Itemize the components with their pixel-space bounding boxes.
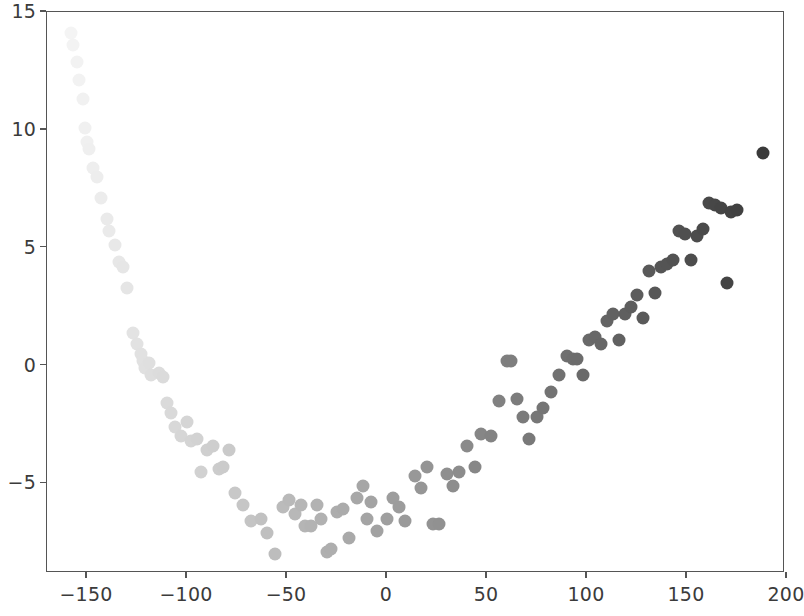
plot-axes: [46, 11, 784, 572]
data-point: [649, 286, 662, 299]
data-point: [325, 543, 338, 556]
data-point: [571, 352, 584, 365]
x-tick-mark: [585, 572, 586, 578]
x-tick-label: −100: [160, 583, 213, 605]
data-point: [415, 482, 428, 495]
data-point: [195, 465, 208, 478]
y-tick-mark: [40, 364, 46, 365]
scatter-plot-figure: −150−100−50050100150200 −5051015: [0, 0, 804, 616]
x-tick-mark: [285, 572, 286, 578]
plot-area: [47, 12, 783, 571]
data-point: [181, 416, 194, 429]
y-tick-label: −5: [8, 471, 36, 493]
data-point: [433, 517, 446, 530]
data-point: [685, 253, 698, 266]
data-point: [393, 501, 406, 514]
data-point: [337, 503, 350, 516]
data-point: [757, 147, 770, 160]
x-tick-label: 150: [668, 583, 705, 605]
data-point: [357, 479, 370, 492]
x-tick-label: 100: [568, 583, 605, 605]
data-point: [343, 531, 356, 544]
y-tick-label: 5: [24, 236, 36, 258]
data-point: [545, 385, 558, 398]
x-tick-label: 0: [380, 583, 392, 605]
data-point: [469, 460, 482, 473]
data-point: [117, 260, 130, 273]
data-point: [109, 239, 122, 252]
data-point: [537, 402, 550, 415]
data-point: [453, 465, 466, 478]
data-point: [229, 486, 242, 499]
y-tick-mark: [40, 10, 46, 11]
data-point: [399, 515, 412, 528]
data-point: [679, 227, 692, 240]
data-point: [315, 512, 328, 525]
x-tick-label: −150: [60, 583, 113, 605]
data-point: [95, 192, 108, 205]
data-point: [421, 460, 434, 473]
data-point: [553, 369, 566, 382]
y-tick-mark: [40, 128, 46, 129]
x-tick-mark: [685, 572, 686, 578]
data-point: [217, 460, 230, 473]
x-tick-mark: [385, 572, 386, 578]
x-tick-mark: [485, 572, 486, 578]
data-point: [79, 121, 92, 134]
x-tick-label: 50: [474, 583, 499, 605]
x-tick-mark: [785, 572, 786, 578]
data-point: [351, 491, 364, 504]
data-point: [311, 498, 324, 511]
data-point: [361, 512, 374, 525]
data-point: [103, 225, 116, 238]
data-point: [261, 526, 274, 539]
data-point: [157, 371, 170, 384]
x-tick-label: 200: [768, 583, 804, 605]
y-tick-label: 10: [11, 118, 36, 140]
y-tick-label: 15: [11, 0, 36, 22]
data-point: [73, 74, 86, 87]
y-tick-mark: [40, 482, 46, 483]
data-point: [731, 204, 744, 217]
data-point: [71, 55, 84, 68]
data-point: [485, 430, 498, 443]
data-point: [165, 406, 178, 419]
data-point: [625, 300, 638, 313]
data-point: [505, 354, 518, 367]
data-point: [523, 432, 536, 445]
y-tick-label: 0: [24, 354, 36, 376]
data-point: [83, 142, 96, 155]
data-point: [721, 277, 734, 290]
y-tick-mark: [40, 246, 46, 247]
data-point: [667, 253, 680, 266]
data-point: [381, 512, 394, 525]
data-point: [517, 411, 530, 424]
data-point: [207, 439, 220, 452]
data-point: [295, 498, 308, 511]
data-point: [461, 439, 474, 452]
data-point: [631, 288, 644, 301]
data-point: [77, 93, 90, 106]
data-point: [269, 548, 282, 561]
data-point: [493, 394, 506, 407]
data-point: [237, 498, 250, 511]
data-point: [365, 496, 378, 509]
data-point: [121, 281, 134, 294]
data-point: [67, 39, 80, 52]
x-tick-mark: [85, 572, 86, 578]
data-point: [371, 524, 384, 537]
data-point: [613, 333, 626, 346]
data-point: [637, 312, 650, 325]
data-point: [595, 338, 608, 351]
data-point: [511, 392, 524, 405]
data-point: [91, 171, 104, 184]
data-point: [191, 432, 204, 445]
data-point: [447, 479, 460, 492]
x-tick-label: −50: [266, 583, 307, 605]
data-point: [223, 444, 236, 457]
x-tick-mark: [185, 572, 186, 578]
data-point: [255, 512, 268, 525]
data-point: [697, 222, 710, 235]
data-point: [577, 369, 590, 382]
